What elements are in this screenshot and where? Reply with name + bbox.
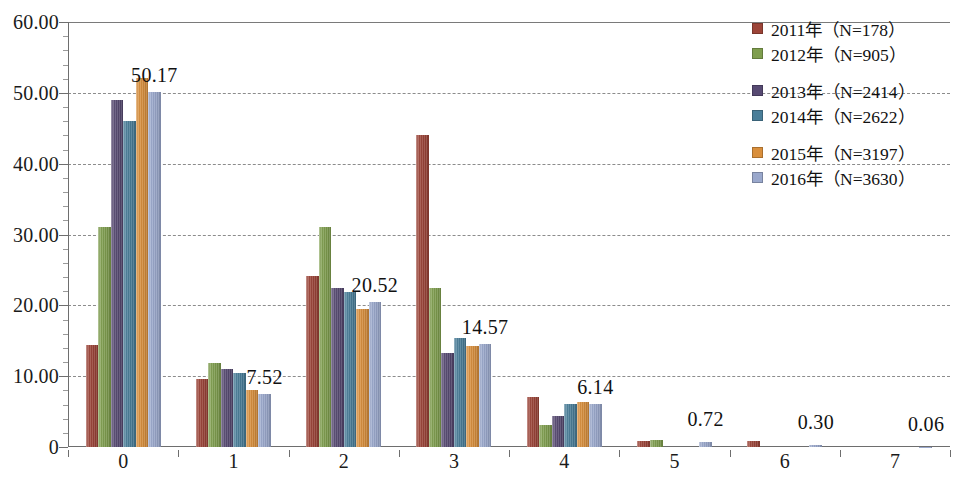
y-axis-minor-tick — [63, 36, 68, 37]
y-axis-minor-tick — [63, 150, 68, 151]
bar-sheen — [369, 302, 381, 447]
bar-group-bars — [637, 22, 712, 447]
x-axis-tick-mark — [509, 450, 510, 457]
legend-item-label: 2013年（N=2414） — [771, 78, 915, 103]
y-axis-tick-label: 20.00 — [0, 294, 59, 317]
y-axis-tick-label: 60.00 — [0, 11, 59, 34]
bar-sheen — [208, 363, 220, 448]
bar — [527, 397, 540, 447]
bar — [441, 353, 454, 447]
bar-sheen — [466, 346, 478, 447]
bar — [479, 344, 492, 447]
legend-item[interactable]: 2012年（N=905） — [752, 41, 957, 66]
bar — [258, 394, 271, 447]
legend-item[interactable]: 2016年（N=3630） — [752, 165, 957, 190]
bar-texture — [429, 288, 441, 447]
bar — [589, 404, 602, 447]
bar-texture — [809, 445, 821, 447]
bar-group — [619, 22, 729, 447]
bar-sheen — [416, 135, 428, 447]
bar-sheen — [527, 397, 539, 447]
x-axis-tick-label: 1 — [178, 450, 288, 473]
legend-item[interactable]: 2013年（N=2414） — [752, 78, 957, 103]
bar — [208, 363, 221, 448]
y-axis-minor-tick — [63, 277, 68, 278]
data-label: 0.30 — [798, 411, 834, 434]
bar-sheen — [258, 394, 270, 447]
bar-texture — [416, 135, 428, 447]
bar — [148, 92, 161, 447]
data-label: 0.72 — [688, 408, 724, 431]
legend-item-label: 2016年（N=3630） — [771, 165, 915, 190]
chart-legend: 2011年（N=178）2012年（N=905）2013年（N=2414）201… — [752, 16, 957, 190]
bar-texture — [564, 404, 576, 447]
bar-group-bars — [306, 22, 381, 447]
x-axis-tick-mark — [730, 450, 731, 457]
y-axis-tick-label: 50.00 — [0, 81, 59, 104]
data-label: 14.57 — [462, 316, 509, 339]
y-axis-tick-mark — [59, 235, 68, 236]
legend-swatch-icon — [752, 172, 763, 183]
legend-item[interactable]: 2015年（N=3197） — [752, 140, 957, 165]
legend-item-label: 2014年（N=2622） — [771, 103, 915, 128]
y-axis-minor-tick — [63, 50, 68, 51]
bar-texture — [233, 373, 245, 447]
bar-sheen — [123, 121, 135, 447]
bar-sheen — [441, 353, 453, 447]
bar — [306, 276, 319, 447]
data-label: 20.52 — [352, 274, 399, 297]
bar-sheen — [111, 100, 123, 447]
bar-sheen — [564, 404, 576, 447]
bar-sheen — [98, 227, 110, 447]
legend-item[interactable]: 2014年（N=2622） — [752, 103, 957, 128]
bar-sheen — [650, 440, 662, 447]
bar — [747, 441, 760, 447]
bar-sheen — [429, 288, 441, 447]
y-axis-tick-label: 30.00 — [0, 223, 59, 246]
bar-texture — [699, 442, 711, 447]
y-axis-minor-tick — [63, 220, 68, 221]
y-axis-tick-mark — [59, 22, 68, 23]
bar — [319, 227, 332, 447]
bar-texture — [221, 369, 233, 447]
bar-sheen — [331, 288, 343, 447]
x-axis-tick-mark — [950, 450, 951, 457]
bar — [196, 379, 209, 447]
y-axis-minor-tick — [63, 419, 68, 420]
bar-texture — [148, 92, 160, 447]
bar-sheen — [233, 373, 245, 447]
data-label: 0.06 — [908, 413, 944, 436]
data-label: 50.17 — [131, 64, 178, 87]
x-axis-tick-mark — [68, 450, 69, 457]
bar-texture — [208, 363, 220, 448]
bar — [98, 227, 111, 447]
bar-texture — [356, 309, 368, 447]
data-label: 7.52 — [247, 366, 283, 389]
y-axis-minor-tick — [63, 348, 68, 349]
bar-texture — [98, 227, 110, 447]
bar-texture — [650, 440, 662, 447]
bar-texture — [527, 397, 539, 447]
bar-texture — [747, 441, 759, 447]
y-axis-tick-mark — [59, 164, 68, 165]
x-axis-tick-label: 5 — [619, 450, 729, 473]
bar-texture — [123, 121, 135, 447]
y-axis-minor-tick — [63, 362, 68, 363]
y-axis-minor-tick — [63, 249, 68, 250]
y-axis-minor-tick — [63, 263, 68, 264]
bar — [429, 288, 442, 447]
bar — [331, 288, 344, 447]
bar-sheen — [196, 379, 208, 447]
legend-item[interactable]: 2011年（N=178） — [752, 16, 957, 41]
bar-sheen — [637, 441, 649, 447]
bar-texture — [306, 276, 318, 447]
bar-group-bars — [416, 22, 491, 447]
x-axis-tick-mark — [178, 450, 179, 457]
bar-group — [289, 22, 399, 447]
legend-item-label: 2012年（N=905） — [771, 41, 906, 66]
bar — [454, 338, 467, 447]
bar-sheen — [539, 425, 551, 447]
bar-sheen — [356, 309, 368, 447]
legend-item-label: 2015年（N=3197） — [771, 140, 915, 165]
y-axis-minor-tick — [63, 206, 68, 207]
